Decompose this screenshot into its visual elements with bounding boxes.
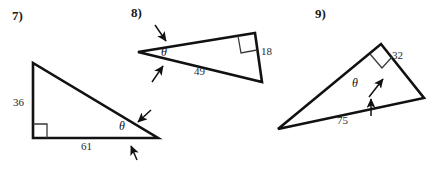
angle-label-8-theta: θ (161, 45, 167, 60)
problem-number-9: 9) (315, 6, 326, 22)
angle-arrow-9-upper-icon (369, 79, 383, 97)
angle-arrow-8-lower-icon (152, 66, 163, 82)
right-angle-marker-9-icon (370, 54, 392, 68)
right-angle-marker-8-icon (238, 36, 257, 53)
side-label-9-hypotenuse: 75 (337, 114, 348, 126)
problem-number-8: 8) (131, 5, 142, 21)
triangle-7 (33, 63, 158, 160)
problem-number-7: 7) (12, 8, 23, 24)
angle-label-7-theta: θ (119, 119, 125, 134)
angle-arrow-7-upper-icon (138, 110, 151, 122)
angle-arrow-8-upper-icon (155, 25, 166, 41)
triangle-7-outline (33, 63, 158, 138)
side-label-7-vertical-leg: 36 (13, 96, 24, 108)
right-angle-marker-7-icon (33, 124, 47, 138)
trigonometry-worksheet: 7) 8) 9) 36 61 θ 49 18 θ 75 32 θ (0, 0, 440, 169)
angle-label-9-theta: θ (352, 76, 358, 91)
angle-arrow-7-lower-icon (131, 146, 137, 160)
side-label-8-opposite-leg: 18 (261, 45, 272, 57)
side-label-8-hypotenuse: 49 (194, 65, 205, 77)
triangle-figures-canvas (0, 0, 440, 169)
side-label-9-opposite-leg: 32 (392, 49, 403, 61)
side-label-7-horizontal-leg: 61 (81, 140, 92, 152)
